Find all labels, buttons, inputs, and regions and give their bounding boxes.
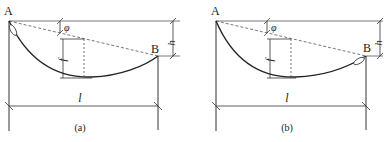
point-a-label: A [4,4,13,18]
anchor-icon [353,56,366,66]
panel-b: h φ f l A B (b) [211,4,384,134]
point-b-label: B [151,42,159,56]
caption-b: (b) [281,122,293,134]
panel-a: h φ f l A B (a) [4,4,180,134]
cable-curve [9,21,158,77]
height-label: h [165,40,177,46]
caption-a: (a) [74,122,85,134]
span-label: l [285,91,289,105]
cable-sag-diagram: h φ f l A B (a) h [0,0,389,142]
angle-label: φ [64,22,70,33]
sag-label: f [56,57,68,62]
chord-line [9,21,158,56]
sag-label: f [263,57,275,62]
point-a-label: A [211,4,220,18]
span-label: l [78,91,82,105]
height-label: h [372,40,384,46]
point-b-label: B [363,41,371,55]
angle-label: φ [271,22,277,33]
chord-line [216,21,366,56]
